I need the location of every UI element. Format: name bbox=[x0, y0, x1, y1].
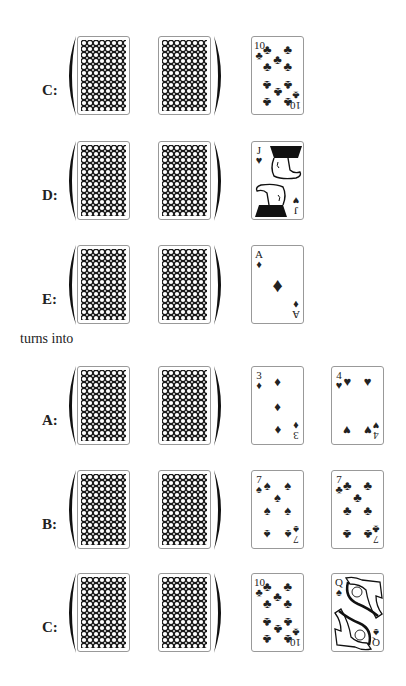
playing-card-7-of-clubs[interactable]: 7♣7♣♣♣♣♣♣♣♣ bbox=[331, 470, 384, 549]
hand-label: C: bbox=[42, 82, 58, 99]
diamonds-pip-icon: ♦ bbox=[274, 374, 281, 387]
clubs-pip-icon: ♣ bbox=[343, 503, 352, 516]
card-back-pattern-icon bbox=[81, 370, 126, 441]
right-bracket-icon bbox=[212, 468, 226, 552]
spades-icon: ♠ bbox=[336, 586, 342, 598]
clubs-pip-icon: ♣ bbox=[283, 96, 292, 109]
clubs-pip-icon: ♣ bbox=[363, 528, 372, 541]
hand-row-after-b: B:7♠7♠♠♠♠♠♠♠♠7♣7♣♣♣♣♣♣♣♣ bbox=[0, 470, 406, 552]
diamonds-icon: ♦ bbox=[256, 258, 262, 270]
playing-card-j-of-hearts[interactable]: J♥J♥ bbox=[251, 141, 304, 220]
face-down-card[interactable] bbox=[158, 36, 211, 115]
clubs-pip-icon: ♣ bbox=[283, 60, 292, 73]
clubs-icon: ♣ bbox=[292, 90, 299, 102]
left-bracket-icon bbox=[64, 571, 78, 655]
face-down-card[interactable] bbox=[77, 470, 130, 549]
playing-card-3-of-diamonds[interactable]: 3♦3♦♦♦♦ bbox=[251, 366, 304, 445]
clubs-pip-icon: ♣ bbox=[343, 478, 352, 491]
playing-card-10-of-clubs[interactable]: 10♣10♣♣♣♣♣♣♣♣♣♣♣ bbox=[251, 573, 304, 652]
card-index-top: 7♠ bbox=[254, 474, 264, 494]
card-back-pattern-icon bbox=[81, 577, 126, 648]
spades-icon: ♠ bbox=[293, 524, 299, 536]
playing-card-a-of-diamonds[interactable]: A♦A♦♦ bbox=[251, 245, 304, 324]
clubs-icon: ♣ bbox=[255, 49, 262, 61]
card-back-pattern-icon bbox=[162, 474, 207, 545]
hearts-icon: ♥ bbox=[373, 420, 380, 432]
right-bracket-icon bbox=[212, 364, 226, 448]
face-down-card[interactable] bbox=[158, 573, 211, 652]
clubs-icon: ♣ bbox=[372, 524, 379, 536]
clubs-pip-icon: ♣ bbox=[263, 615, 272, 628]
spades-pip-icon: ♠ bbox=[284, 478, 291, 491]
face-down-card[interactable] bbox=[77, 36, 130, 115]
clubs-pip-icon: ♣ bbox=[283, 597, 292, 610]
hand-row-before-d: D:J♥J♥ bbox=[0, 141, 406, 223]
card-back-pattern-icon bbox=[81, 40, 126, 111]
clubs-pip-icon: ♣ bbox=[363, 478, 372, 491]
card-index-bottom: 3♦ bbox=[291, 421, 301, 441]
spades-pip-icon: ♠ bbox=[264, 503, 271, 516]
hearts-pip-icon: ♥ bbox=[364, 374, 372, 387]
spades-pip-icon: ♠ bbox=[264, 528, 271, 541]
hand-label: E: bbox=[42, 291, 57, 308]
hand-label: D: bbox=[42, 187, 58, 204]
face-down-card[interactable] bbox=[158, 470, 211, 549]
clubs-pip-icon: ♣ bbox=[273, 589, 282, 602]
card-index-top: Q♠ bbox=[334, 577, 344, 597]
clubs-pip-icon: ♣ bbox=[283, 633, 292, 646]
face-down-card[interactable] bbox=[77, 141, 130, 220]
left-bracket-icon bbox=[64, 364, 78, 448]
hand-label: A: bbox=[42, 412, 58, 429]
face-down-card[interactable] bbox=[77, 366, 130, 445]
hand-row-after-c: C:10♣10♣♣♣♣♣♣♣♣♣♣♣Q♠Q♠ bbox=[0, 573, 406, 655]
clubs-pip-icon: ♣ bbox=[283, 78, 292, 91]
spades-pip-icon: ♠ bbox=[274, 491, 281, 504]
playing-card-q-of-spades[interactable]: Q♠Q♠ bbox=[331, 573, 384, 652]
hand-row-before-e: E:A♦A♦♦ bbox=[0, 245, 406, 327]
clubs-pip-icon: ♣ bbox=[363, 503, 372, 516]
hearts-icon: ♥ bbox=[336, 379, 343, 391]
clubs-pip-icon: ♣ bbox=[273, 86, 282, 99]
face-down-card[interactable] bbox=[77, 245, 130, 324]
card-index-bottom: 4♥ bbox=[371, 421, 381, 441]
face-down-card[interactable] bbox=[158, 245, 211, 324]
clubs-pip-icon: ♣ bbox=[283, 615, 292, 628]
hearts-icon: ♥ bbox=[256, 154, 263, 166]
hand-row-before-c: C:10♣10♣♣♣♣♣♣♣♣♣♣♣ bbox=[0, 36, 406, 118]
spades-icon: ♠ bbox=[373, 627, 379, 639]
diamonds-icon: ♦ bbox=[293, 420, 299, 432]
card-index-bottom: Q♠ bbox=[371, 628, 381, 648]
playing-card-10-of-clubs[interactable]: 10♣10♣♣♣♣♣♣♣♣♣♣♣ bbox=[251, 36, 304, 115]
playing-card-4-of-hearts[interactable]: 4♥4♥♥♥♥♥ bbox=[331, 366, 384, 445]
right-bracket-icon bbox=[212, 243, 226, 327]
clubs-pip-icon: ♣ bbox=[263, 96, 272, 109]
clubs-pip-icon: ♣ bbox=[283, 42, 292, 55]
face-down-card[interactable] bbox=[77, 573, 130, 652]
spades-pip-icon: ♠ bbox=[284, 528, 291, 541]
card-index-bottom: 10♣ bbox=[291, 91, 301, 111]
card-index-top: A♦ bbox=[254, 249, 264, 269]
clubs-pip-icon: ♣ bbox=[263, 579, 272, 592]
left-bracket-icon bbox=[64, 34, 78, 118]
card-back-pattern-icon bbox=[81, 249, 126, 320]
clubs-pip-icon: ♣ bbox=[263, 633, 272, 646]
clubs-pip-icon: ♣ bbox=[353, 491, 362, 504]
card-back-pattern-icon bbox=[81, 145, 126, 216]
face-down-card[interactable] bbox=[158, 366, 211, 445]
face-down-card[interactable] bbox=[158, 141, 211, 220]
diamonds-pip-icon: ♦ bbox=[274, 399, 281, 412]
card-index-bottom: J♥ bbox=[291, 196, 301, 216]
card-back-pattern-icon bbox=[162, 249, 207, 320]
clubs-pip-icon: ♣ bbox=[263, 42, 272, 55]
clubs-pip-icon: ♣ bbox=[263, 60, 272, 73]
left-bracket-icon bbox=[64, 243, 78, 327]
diamonds-pip-icon: ♦ bbox=[274, 424, 281, 437]
card-back-pattern-icon bbox=[162, 577, 207, 648]
clubs-pip-icon: ♣ bbox=[273, 52, 282, 65]
playing-card-7-of-spades[interactable]: 7♠7♠♠♠♠♠♠♠♠ bbox=[251, 470, 304, 549]
clubs-icon: ♣ bbox=[255, 586, 262, 598]
card-back-pattern-icon bbox=[162, 40, 207, 111]
clubs-icon: ♣ bbox=[292, 627, 299, 639]
diamonds-icon: ♦ bbox=[256, 379, 262, 391]
clubs-pip-icon: ♣ bbox=[263, 597, 272, 610]
